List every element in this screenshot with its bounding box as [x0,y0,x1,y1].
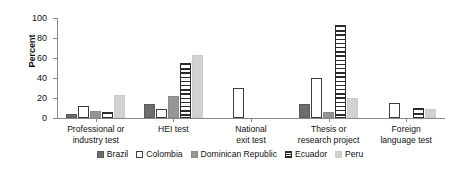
bar-group-bars [135,18,213,118]
percent-by-graduation-requirement-bar-chart: Percent 020406080100 Professional orindu… [0,0,460,172]
bar-brazil [66,114,77,118]
y-axis-tick-label: 60 [37,53,47,63]
legend-item-peru[interactable]: Peru [335,149,363,159]
category-label-line-1: Foreign [392,124,421,134]
legend-item-ecuador[interactable]: Ecuador [285,149,327,159]
legend-label: Ecuador [295,149,327,159]
category-label-line-2: industry test [48,135,144,146]
y-axis-tick: 0 [53,118,57,119]
bar-ecuador [413,108,424,118]
bar-peru [425,109,436,118]
y-axis-tick-label: 20 [37,93,47,103]
bar-group: Nationalexit test [212,18,290,118]
legend-swatch-icon [191,151,198,158]
x-axis-tick [406,118,407,122]
legend-label: Peru [345,149,363,159]
legend-item-colombia[interactable]: Colombia [136,149,182,159]
bar-group: Foreignlanguage test [367,18,445,118]
y-axis-tick-label: 80 [37,33,47,43]
chart-legend: BrazilColombiaDominican RepublicEcuadorP… [0,149,460,159]
y-axis-tick-label: 100 [32,13,47,23]
bar-group: HEI test [135,18,213,118]
category-label-line-1: Professional or [67,124,124,134]
plot-area: 020406080100 Professional orindustry tes… [57,18,445,118]
y-axis-tick-label: 0 [42,113,47,123]
legend-swatch-icon [97,151,104,158]
x-axis-tick [329,118,330,122]
legend-swatch-icon [136,151,143,158]
bar-ecuador [180,63,191,118]
bar-colombia [233,88,244,118]
bar-brazil [144,104,155,118]
x-axis-category-label: Foreignlanguage test [358,124,454,145]
y-axis-title: Percent [27,21,37,81]
bar-peru [192,55,203,118]
legend-swatch-icon [335,151,342,158]
bar-ecuador [335,25,346,118]
bar-colombia [311,78,322,118]
x-axis-tick [96,118,97,122]
bar-ecuador [102,112,113,118]
legend-item-brazil[interactable]: Brazil [97,149,129,159]
legend-item-dominican[interactable]: Dominican Republic [191,149,277,159]
bar-peru [347,98,358,118]
legend-label: Dominican Republic [201,149,277,159]
x-axis-tick [251,118,252,122]
legend-swatch-icon [285,151,292,158]
category-label-line-1: National [235,124,267,134]
category-label-line-1: HEI test [158,124,189,134]
y-axis-tick-label: 40 [37,73,47,83]
legend-label: Brazil [107,149,129,159]
bar-brazil [299,104,310,118]
bar-dominican [90,111,101,118]
bar-group: Thesis orresearch project [290,18,368,118]
bar-dominican [168,96,179,118]
bar-colombia [156,109,167,118]
bar-peru [114,95,125,118]
bar-group-bars [290,18,368,118]
legend-label: Colombia [146,149,182,159]
bar-colombia [389,103,400,118]
category-label-line-2: language test [358,135,454,146]
x-axis-tick [173,118,174,122]
bar-group: Professional orindustry test [57,18,135,118]
bar-group-bars [57,18,135,118]
category-label-line-1: Thesis or [311,124,346,134]
bar-group-bars [367,18,445,118]
bar-group-bars [212,18,290,118]
bar-colombia [78,106,89,118]
